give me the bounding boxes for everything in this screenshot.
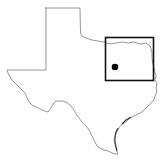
location-marker-dot (112, 64, 119, 71)
locator-map: Texas (0, 0, 166, 166)
map-background (0, 0, 166, 166)
texas-map-canvas (0, 0, 166, 166)
